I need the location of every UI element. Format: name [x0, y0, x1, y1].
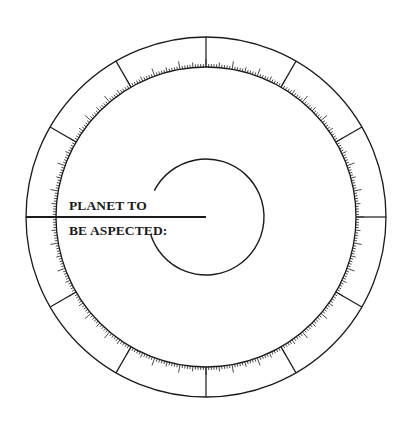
aspect-wheel: [0, 0, 409, 432]
planet-label-line-2: BE ASPECTED:: [69, 224, 167, 238]
planet-label-line-1: PLANET TO: [69, 199, 147, 213]
